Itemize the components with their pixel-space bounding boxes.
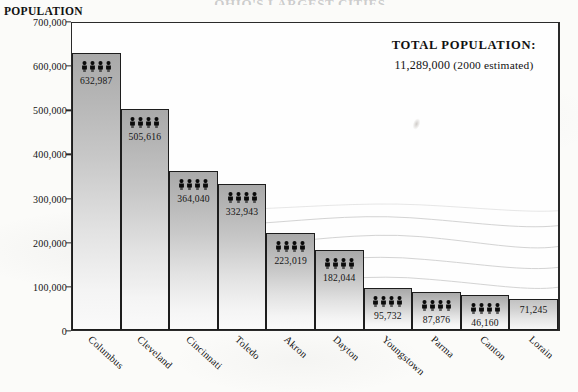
x-axis-label-parma[interactable]: Parma [429,334,456,360]
total-population-value: 11,289,000 (2000 estimated) [360,58,568,73]
people-icon [178,176,209,191]
x-axis-label-slot: Toledo [218,333,267,391]
person-glyph [227,191,234,204]
people-icon [324,255,355,270]
bar-value-label: 182,044 [323,272,356,283]
bar-cincinnati[interactable]: 364,040 [169,171,218,330]
y-axis-tick-label: 500,000 [33,105,67,116]
person-glyph [202,178,209,191]
person-glyph [299,240,306,253]
x-axis-label-slot: Dayton [316,333,365,391]
person-glyph [486,302,493,315]
y-axis: 0100,000200,000300,000400,000500,000600,… [0,22,71,331]
x-axis-label-akron[interactable]: Akron [282,334,309,360]
x-axis-label-slot: Columbus [71,333,120,391]
bar-columbus[interactable]: 632,987 [72,53,121,330]
bar-content: 332,943 [219,185,266,217]
person-glyph [153,116,160,129]
x-axis-label-canton[interactable]: Canton [478,334,508,363]
person-glyph [137,116,144,129]
x-axis-label-slot: Canton [462,333,511,391]
person-glyph [437,299,444,312]
person-glyph [291,240,298,253]
bar-slot: 364,040 [169,23,218,330]
bar-content: 505,616 [122,110,169,142]
person-glyph [129,116,136,129]
chart-canvas: OHIO'S LARGEST CITIES POPULATION 0100,00… [0,0,578,392]
x-axis-label-slot: Youngstown [364,333,413,391]
y-axis-title: POPULATION [4,5,83,17]
bar-dayton[interactable]: 182,044 [315,250,364,330]
bar-lorain[interactable]: 71,245 [509,299,558,330]
x-axis-label-slot: Lorain [511,333,560,391]
person-glyph [186,178,193,191]
x-axis-label-slot: Cleveland [120,333,169,391]
people-icon [372,293,403,308]
chart-title: OHIO'S LARGEST CITIES [180,0,420,5]
y-axis-tick-label: 300,000 [33,193,67,204]
people-icon [129,114,160,129]
person-glyph [194,178,201,191]
y-axis-tick-label: 600,000 [33,61,67,72]
person-glyph [421,299,428,312]
person-glyph [275,240,282,253]
x-axis-label-slot: Parma [413,333,462,391]
person-glyph [145,116,152,129]
bar-value-label: 87,876 [423,314,451,325]
x-axis-label-lorain[interactable]: Lorain [527,334,555,361]
bar-content: 87,876 [413,293,460,325]
bar-value-label: 364,040 [177,193,210,204]
person-glyph [81,60,88,73]
person-glyph [429,299,436,312]
people-icon [81,58,112,73]
bar-akron[interactable]: 223,019 [266,233,315,330]
x-axis-label-dayton[interactable]: Dayton [331,334,362,363]
person-glyph [283,240,290,253]
person-glyph [251,191,258,204]
bar-canton[interactable]: 46,160 [461,295,510,330]
people-icon [227,189,258,204]
person-glyph [243,191,250,204]
x-axis-label-slot: Cincinnati [169,333,218,391]
person-glyph [97,60,104,73]
bar-value-label: 95,732 [374,310,402,321]
bar-toledo[interactable]: 332,943 [218,184,267,330]
people-icon [421,297,452,312]
total-population-annotation: TOTAL POPULATION: 11,289,000 (2000 estim… [360,38,568,73]
bar-value-label: 632,987 [80,75,113,86]
person-glyph [388,295,395,308]
y-axis-tick-label: 100,000 [33,281,67,292]
bar-slot: 505,616 [121,23,170,330]
person-glyph [89,60,96,73]
person-glyph [324,257,331,270]
bar-content: 182,044 [316,251,363,283]
bar-value-label: 332,943 [226,206,259,217]
total-value-note: (2000 estimated) [453,59,533,71]
bar-content: 95,732 [365,289,412,321]
person-glyph [332,257,339,270]
bar-youngstown[interactable]: 95,732 [364,288,413,330]
y-axis-tick-label: 200,000 [33,237,67,248]
person-glyph [105,60,112,73]
person-glyph [494,302,501,315]
person-glyph [470,302,477,315]
person-glyph [178,178,185,191]
total-population-label: TOTAL POPULATION: [360,38,568,53]
person-glyph [372,295,379,308]
bar-content: 223,019 [267,234,314,266]
y-axis-tick-label: 700,000 [33,17,67,28]
x-axis-labels: ColumbusClevelandCincinnatiToledoAkronDa… [71,333,560,391]
person-glyph [478,302,485,315]
y-axis-tick-label: 400,000 [33,149,67,160]
bar-parma[interactable]: 87,876 [412,292,461,330]
person-glyph [235,191,242,204]
person-glyph [380,295,387,308]
bar-slot: 332,943 [218,23,267,330]
bar-content: 71,245 [510,300,557,315]
bar-cleveland[interactable]: 505,616 [121,109,170,330]
x-axis-label-toledo[interactable]: Toledo [233,334,262,362]
person-glyph [340,257,347,270]
bar-slot: 632,987 [72,23,121,330]
bar-value-label: 505,616 [129,131,162,142]
person-glyph [445,299,452,312]
